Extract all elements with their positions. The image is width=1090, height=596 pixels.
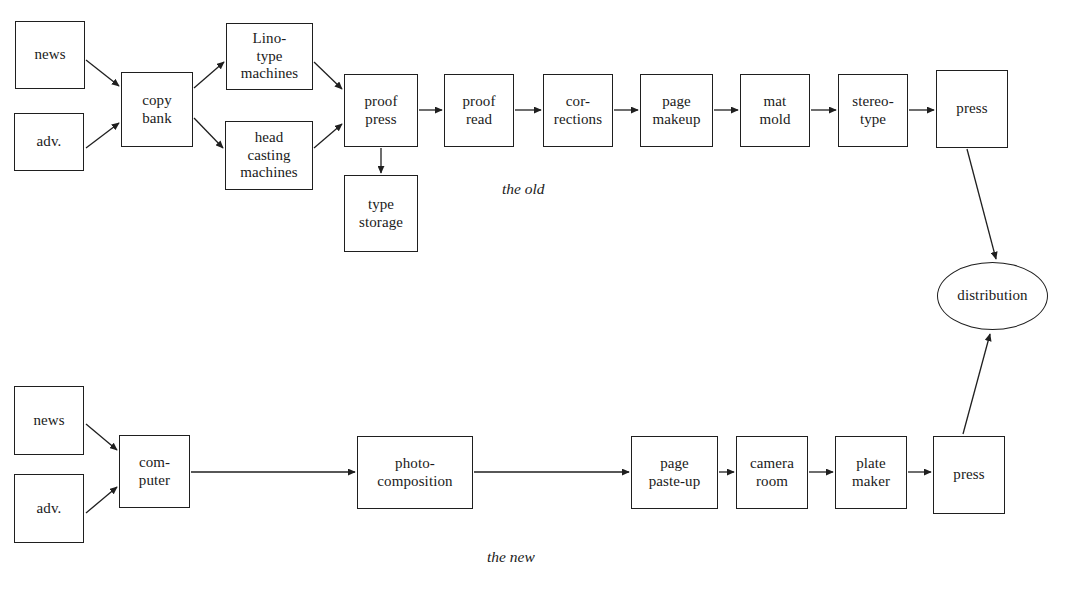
node-old-head-cast[interactable]: head casting machines <box>225 121 313 190</box>
node-label-old-linotype: Lino- type machines <box>241 30 298 83</box>
node-label-new-page-pasteup: page paste-up <box>649 455 701 490</box>
node-old-type-storage[interactable]: type storage <box>344 175 418 252</box>
node-label-old-press: press <box>956 100 987 118</box>
node-old-proof-read[interactable]: proof read <box>444 74 514 147</box>
node-old-adv[interactable]: adv. <box>14 113 84 171</box>
node-label-new-computer: com- puter <box>139 454 170 489</box>
node-old-stereotype[interactable]: stereo- type <box>838 74 908 147</box>
node-label-new-plate-maker: plate maker <box>852 455 890 490</box>
edge-old-press-to-distribution <box>967 149 996 259</box>
node-old-news[interactable]: news <box>15 21 85 89</box>
node-label-old-news: news <box>34 46 65 64</box>
node-label-old-corrections: cor- rections <box>554 93 602 128</box>
node-label-old-head-cast: head casting machines <box>240 129 297 182</box>
node-label-old-mat-mold: mat mold <box>759 93 790 128</box>
node-label-old-copy-bank: copy bank <box>142 92 172 127</box>
node-old-mat-mold[interactable]: mat mold <box>740 74 810 147</box>
edge-old-adv-to-copy-bank <box>86 123 119 148</box>
node-label-old-adv: adv. <box>37 133 62 151</box>
node-label-old-stereotype: stereo- type <box>852 93 894 128</box>
node-old-press[interactable]: press <box>936 70 1008 148</box>
node-new-page-pasteup[interactable]: page paste-up <box>631 436 718 509</box>
node-distribution[interactable]: distribution <box>937 262 1048 330</box>
edge-new-adv-to-computer <box>86 487 117 513</box>
node-old-page-makeup[interactable]: page makeup <box>640 74 713 147</box>
node-label-new-news: news <box>33 412 64 430</box>
edge-linotype-to-proof-press <box>314 62 342 89</box>
caption-the-new: the new <box>487 548 535 566</box>
node-new-photocomp[interactable]: photo- composition <box>357 436 473 509</box>
edge-head-casting-to-proof-press <box>314 124 342 148</box>
edge-new-news-to-computer <box>86 424 117 450</box>
edge-copy-bank-to-head-casting <box>194 118 223 148</box>
node-label-old-proof-press: proof press <box>365 93 398 128</box>
node-old-corrections[interactable]: cor- rections <box>543 74 613 147</box>
node-new-camera-room[interactable]: camera room <box>736 436 808 509</box>
edge-copy-bank-to-linotype <box>194 62 224 88</box>
node-new-adv[interactable]: adv. <box>14 474 84 543</box>
node-label-old-page-makeup: page makeup <box>652 93 700 128</box>
node-old-proof-press[interactable]: proof press <box>344 74 418 147</box>
node-old-copy-bank[interactable]: copy bank <box>121 72 193 147</box>
node-label-old-proof-read: proof read <box>463 93 496 128</box>
edge-old-news-to-copy-bank <box>86 60 119 86</box>
node-old-linotype[interactable]: Lino- type machines <box>226 23 313 90</box>
node-label-new-adv: adv. <box>37 500 62 518</box>
node-label-new-press: press <box>953 466 984 484</box>
flowchart-diagram: newsadv.copy bankLino- type machineshead… <box>0 0 1090 596</box>
node-label-old-type-storage: type storage <box>359 196 403 231</box>
node-new-press[interactable]: press <box>933 436 1005 514</box>
node-label-new-photocomp: photo- composition <box>377 455 452 490</box>
node-new-news[interactable]: news <box>14 386 84 455</box>
node-label-new-camera-room: camera room <box>750 455 794 490</box>
node-new-computer[interactable]: com- puter <box>119 435 190 508</box>
node-label-distribution: distribution <box>957 287 1027 305</box>
edge-new-press-to-distribution <box>963 334 990 434</box>
node-new-plate-maker[interactable]: plate maker <box>835 436 907 509</box>
caption-the-old: the old <box>502 180 545 198</box>
